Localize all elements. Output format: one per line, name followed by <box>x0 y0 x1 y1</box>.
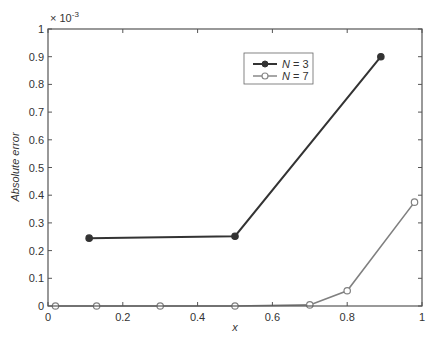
y-tick-label: 0.8 <box>29 78 44 90</box>
y-tick-label: 0.7 <box>29 106 44 118</box>
y-tick-label: 0.1 <box>29 272 44 284</box>
y-tick-label: 0 <box>38 300 44 312</box>
y-tick-label: 0.2 <box>29 245 44 257</box>
x-tick-label: 0.6 <box>265 311 280 323</box>
data-point <box>86 235 92 241</box>
y-tick-label: 0.5 <box>29 162 44 174</box>
plot-frame <box>48 29 422 306</box>
y-tick-label: 1 <box>38 23 44 35</box>
x-tick-label: 0.8 <box>340 311 355 323</box>
data-point <box>378 54 384 60</box>
series-line-0 <box>89 57 381 238</box>
series-line-1 <box>55 202 414 306</box>
y-tick-label: 0.6 <box>29 134 44 146</box>
x-axis-label: x <box>231 321 238 333</box>
chart: 00.20.40.60.8100.10.20.30.40.50.60.70.80… <box>0 0 440 346</box>
legend-marker-n7 <box>262 73 268 79</box>
y-tick-label: 0.3 <box>29 217 44 229</box>
legend-label-n7: N = 7 <box>282 70 309 82</box>
data-point <box>411 199 417 205</box>
y-tick-label: 0.9 <box>29 51 44 63</box>
x-tick-label: 0.2 <box>115 311 130 323</box>
legend-marker-n3 <box>262 61 268 67</box>
x-tick-label: 0 <box>45 311 51 323</box>
y-tick-label: 0.4 <box>29 189 44 201</box>
data-point <box>232 233 238 239</box>
x-tick-label: 0.4 <box>190 311 205 323</box>
y-multiplier: × 10-3 <box>50 10 79 24</box>
x-tick-label: 1 <box>419 311 425 323</box>
data-point <box>307 302 313 308</box>
data-point <box>344 288 350 294</box>
legend: N = 3 N = 7 <box>244 53 313 84</box>
y-axis-label: Absolute error <box>9 131 21 202</box>
legend-label-n3: N = 3 <box>282 58 309 70</box>
